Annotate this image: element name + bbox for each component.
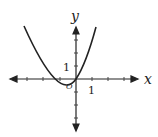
graph: y x 1 1 O bbox=[0, 0, 158, 137]
origin-label: O bbox=[66, 82, 73, 91]
x-axis-label: x bbox=[144, 71, 152, 87]
parabola-curve bbox=[24, 26, 96, 85]
y-tick-label: 1 bbox=[63, 61, 70, 74]
y-axis-label: y bbox=[70, 8, 80, 24]
x-tick-label: 1 bbox=[88, 84, 95, 97]
